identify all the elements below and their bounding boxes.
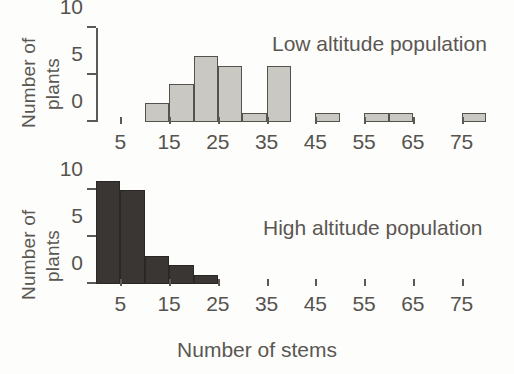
x-tick — [267, 279, 269, 286]
y-axis-title-line1: Number of — [18, 37, 40, 128]
histogram-bar — [194, 56, 218, 122]
x-tick-label: 15 — [157, 131, 180, 152]
x-tick — [120, 279, 122, 286]
x-tick-label: 45 — [304, 293, 327, 314]
histogram-bar — [267, 66, 291, 122]
histogram-bar — [315, 113, 339, 122]
panel-title-high-altitude: High altitude population — [263, 216, 483, 240]
histogram-bar — [194, 275, 218, 284]
x-tick-label: 25 — [206, 293, 229, 314]
histogram-bar — [96, 181, 120, 284]
y-tick-label: 5 — [71, 43, 83, 64]
histogram-bar — [462, 113, 486, 122]
y-axis-title-line1: Number of — [18, 209, 40, 300]
x-tick — [315, 279, 317, 286]
x-tick-label: 25 — [206, 131, 229, 152]
x-tick — [169, 279, 171, 286]
x-tick — [462, 279, 464, 286]
x-tick-label: 75 — [450, 293, 473, 314]
y-tick — [87, 235, 96, 237]
x-tick — [462, 117, 464, 124]
x-tick-label: 55 — [352, 131, 375, 152]
x-tick — [218, 117, 220, 124]
x-tick — [413, 279, 415, 286]
y-tick-label: 10 — [60, 158, 83, 179]
x-tick-label: 65 — [401, 131, 424, 152]
x-tick-label: 45 — [304, 131, 327, 152]
x-tick — [315, 117, 317, 124]
x-tick-label: 15 — [157, 293, 180, 314]
y-tick — [87, 188, 96, 190]
x-tick-label: 35 — [255, 131, 278, 152]
histogram-bar — [120, 190, 144, 284]
histogram-bar — [242, 113, 266, 122]
histogram-bar — [218, 66, 242, 122]
x-tick-label: 5 — [115, 293, 127, 314]
y-tick-label: 5 — [71, 205, 83, 226]
histogram-bar — [389, 113, 413, 122]
x-axis-title: Number of stems — [0, 338, 514, 362]
y-tick-label: 10 — [60, 0, 83, 17]
histogram-bar — [169, 265, 193, 284]
x-tick-label: 65 — [401, 293, 424, 314]
x-tick-label: 5 — [115, 131, 127, 152]
x-tick — [218, 279, 220, 286]
y-tick — [87, 120, 96, 122]
y-tick-label: 0 — [71, 90, 83, 111]
y-tick-label: 0 — [71, 252, 83, 273]
y-tick — [87, 282, 96, 284]
x-tick — [120, 117, 122, 124]
x-tick-label: 75 — [450, 131, 473, 152]
histogram-bar — [145, 256, 169, 284]
x-tick-label: 55 — [352, 293, 375, 314]
y-tick — [87, 26, 96, 28]
histogram-bar — [145, 103, 169, 122]
histogram-bar — [169, 84, 193, 122]
y-tick — [87, 73, 96, 75]
x-tick — [413, 117, 415, 124]
chart-panel-low-altitude: Number of plants Low altitude population… — [0, 0, 514, 175]
x-tick-label: 35 — [255, 293, 278, 314]
x-tick — [364, 279, 366, 286]
x-tick — [267, 117, 269, 124]
y-axis-title-line2: plants — [42, 230, 64, 282]
y-axis-title-line2: plants — [42, 58, 64, 110]
histogram-bar — [364, 113, 388, 122]
x-tick — [169, 117, 171, 124]
bar-series-low-altitude — [96, 28, 486, 122]
plot-area-low-altitude: 0510515253545556575 — [96, 28, 486, 122]
x-tick — [364, 117, 366, 124]
